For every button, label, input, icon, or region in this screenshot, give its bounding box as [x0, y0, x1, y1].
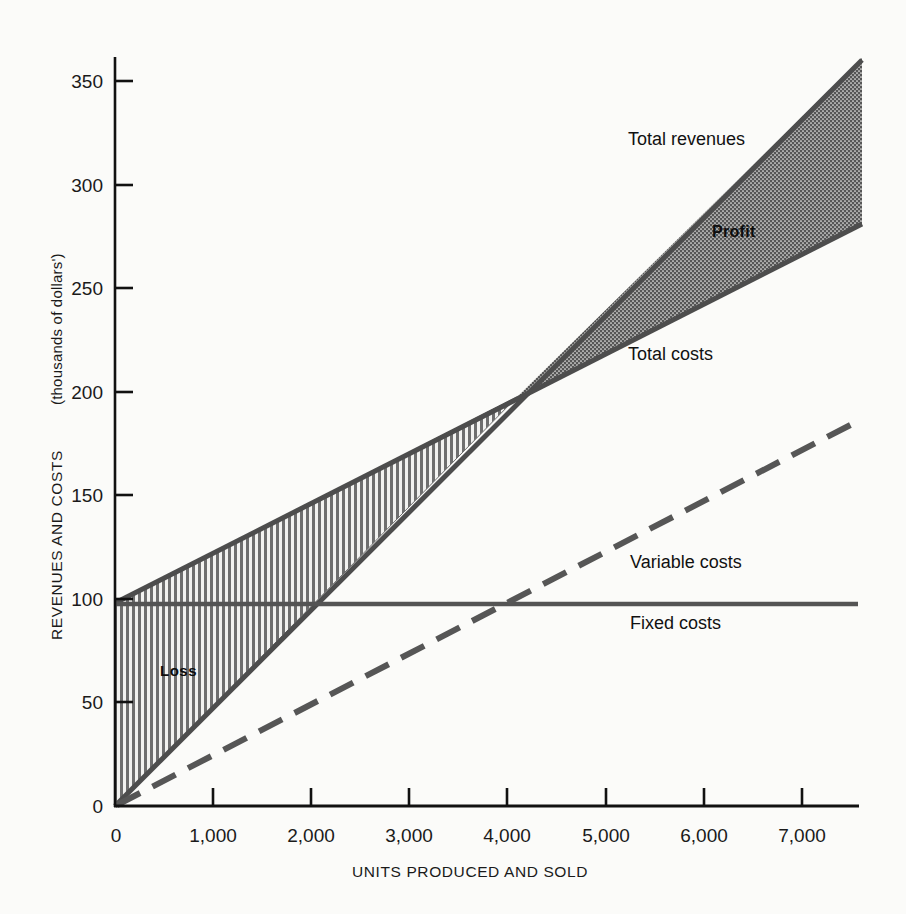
- y-axis-title-main: REVENUES AND COSTS: [48, 450, 65, 640]
- y-tick-label-50: 50: [82, 692, 103, 713]
- y-tick-label-100: 100: [71, 589, 103, 610]
- series-label-fixed-costs: Fixed costs: [630, 613, 721, 633]
- x-tick-label-0: 0: [111, 825, 122, 846]
- series-label-total-revenues: Total revenues: [628, 129, 745, 149]
- region-label-profit: Profit: [712, 223, 756, 240]
- x-tick-label-1000: 1,000: [189, 825, 237, 846]
- x-axis-title: UNITS PRODUCED AND SOLD: [352, 863, 588, 880]
- y-tick-label-200: 200: [71, 382, 103, 403]
- series-label-variable-costs: Variable costs: [630, 552, 742, 572]
- y-tick-label-150: 150: [71, 485, 103, 506]
- series-label-total-costs: Total costs: [628, 344, 713, 364]
- x-tick-label-6000: 6,000: [680, 825, 728, 846]
- x-tick-label-5000: 5,000: [582, 825, 630, 846]
- chart-canvas: 350 300 250 200 150 100 50 0 0 1,000 2,0…: [0, 0, 906, 914]
- y-tick-label-300: 300: [71, 175, 103, 196]
- x-tick-label-4000: 4,000: [483, 825, 531, 846]
- x-tick-label-3000: 3,000: [385, 825, 433, 846]
- y-tick-label-250: 250: [71, 278, 103, 299]
- x-tick-label-7000: 7,000: [778, 825, 826, 846]
- x-tick-label-2000: 2,000: [287, 825, 335, 846]
- region-label-loss: Loss: [160, 662, 197, 679]
- y-axis-title-sub: (thousands of dollars'): [48, 253, 65, 405]
- y-tick-label-0: 0: [92, 796, 103, 817]
- y-tick-label-350: 350: [71, 71, 103, 92]
- break-even-chart: 350 300 250 200 150 100 50 0 0 1,000 2,0…: [0, 0, 906, 914]
